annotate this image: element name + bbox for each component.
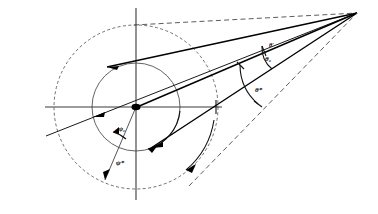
center-chord-ray	[46, 13, 357, 136]
radius-line-arrowhead	[103, 169, 110, 180]
lower-dashed-ray	[189, 13, 357, 186]
outer-circle-arc	[186, 120, 214, 170]
label-theta-star: θ*	[255, 86, 263, 94]
theta-star-tick-end	[254, 101, 262, 107]
geometry-figure: ψ₀ ψ* θ' θ₀ θ*	[0, 0, 378, 214]
diagram-root: ψ₀ ψ* θ' θ₀ θ*	[0, 0, 378, 214]
radius-line-psi-star	[105, 107, 136, 180]
lower-tangent-ray	[151, 13, 357, 148]
label-theta-prime: θ'	[269, 42, 274, 48]
center-chord-arrowhead	[93, 112, 105, 117]
label-psi-zero: ψ₀	[119, 126, 125, 132]
center-origin-dot	[132, 104, 141, 110]
label-psi-star: ψ*	[116, 159, 125, 167]
inner-circle-arc	[148, 111, 180, 149]
label-theta-zero: θ₀	[265, 55, 272, 63]
upper-tangent-ray	[107, 13, 357, 67]
upper-dashed-ray	[134, 13, 357, 25]
center-to-apex-ray	[137, 13, 357, 107]
